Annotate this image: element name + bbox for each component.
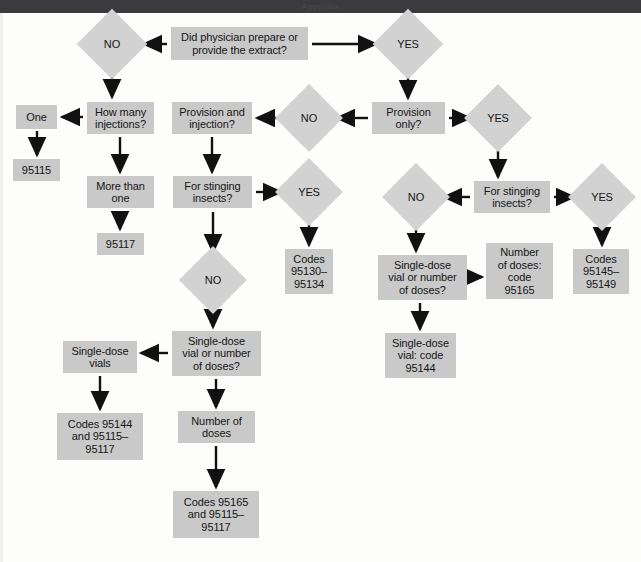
node-95117: 95117	[97, 233, 144, 255]
node-label: 95115	[22, 164, 51, 177]
node-for-stinging-insects: For stinging insects?	[173, 176, 252, 208]
node-label: Codes 95130– 95134	[291, 253, 327, 291]
node-label: YES	[298, 186, 320, 199]
node-one: One	[16, 105, 57, 129]
node-label: Codes 95144 and 95115– 95117	[68, 418, 132, 456]
node-label: Provision and injection?	[179, 106, 244, 131]
node-label: Single-dose vial: code 95144	[392, 337, 449, 375]
node-label: One	[26, 111, 47, 124]
node-provision-and-injection: Provision and injection?	[172, 102, 252, 134]
node-label: NO	[408, 191, 424, 204]
node-did-physician-prepare-or-provide-the-extra: Did physician prepare or provide the ext…	[171, 27, 308, 60]
node-how-many-injections: How many injections?	[87, 102, 154, 134]
node-codes-95145-95149: Codes 95145– 95149	[573, 249, 629, 294]
decision-no: NO	[392, 173, 440, 221]
node-label: More than one	[96, 180, 145, 205]
node-label: Codes 95165 and 95115– 95117	[184, 496, 248, 534]
node-label: NO	[205, 274, 221, 287]
node-number-of-doses-code-95165: Number of doses: code 95165	[486, 243, 553, 299]
node-label: For stinging insects?	[484, 185, 540, 210]
node-label: Single-dose vial or number of doses?	[182, 335, 250, 373]
node-label: YES	[487, 112, 509, 125]
node-label: Did physician prepare or provide the ext…	[181, 31, 298, 56]
node-label: Provision only?	[386, 106, 430, 131]
node-codes-95165-and-95115-95117: Codes 95165 and 95115– 95117	[173, 491, 259, 538]
decision-yes: YES	[578, 173, 626, 221]
node-label: Single-dose vials	[72, 345, 129, 370]
decision-no: NO	[189, 256, 237, 304]
flowchart-page: Appendix Did physician prepare or provid…	[0, 0, 641, 562]
node-provision-only: Provision only?	[372, 102, 445, 134]
node-codes-95130-95134: Codes 95130– 95134	[285, 249, 333, 294]
node-label: How many injections?	[95, 106, 146, 131]
node-more-than-one: More than one	[87, 176, 154, 208]
decision-yes: YES	[383, 19, 433, 69]
decision-yes: YES	[285, 168, 333, 216]
node-single-dose-vial-code-95144: Single-dose vial: code 95144	[385, 333, 456, 378]
node-label: NO	[104, 38, 120, 51]
node-label: For stinging insects?	[184, 180, 240, 205]
node-label: 95117	[106, 238, 135, 251]
node-single-dose-vial-or-number-of-doses: Single-dose vial or number of doses?	[172, 331, 261, 376]
node-codes-95144-and-95115-95117: Codes 95144 and 95115– 95117	[57, 413, 143, 460]
decision-no: NO	[87, 19, 137, 69]
node-95115: 95115	[13, 159, 60, 181]
node-single-dose-vials: Single-dose vials	[63, 341, 137, 373]
node-label: Single-dose vial or number of doses?	[388, 259, 456, 297]
node-label: YES	[591, 191, 613, 204]
node-label: Number of doses: code 95165	[498, 246, 542, 296]
node-number-of-doses: Number of doses	[178, 411, 255, 443]
node-label: Number of doses	[191, 415, 241, 440]
decision-yes: YES	[474, 94, 522, 142]
node-label: YES	[397, 38, 419, 51]
node-for-stinging-insects: For stinging insects?	[474, 181, 550, 213]
decision-no: NO	[285, 94, 333, 142]
node-label: NO	[301, 112, 317, 125]
node-label: Codes 95145– 95149	[583, 253, 619, 291]
node-single-dose-vial-or-number-of-doses: Single-dose vial or number of doses?	[378, 255, 467, 300]
